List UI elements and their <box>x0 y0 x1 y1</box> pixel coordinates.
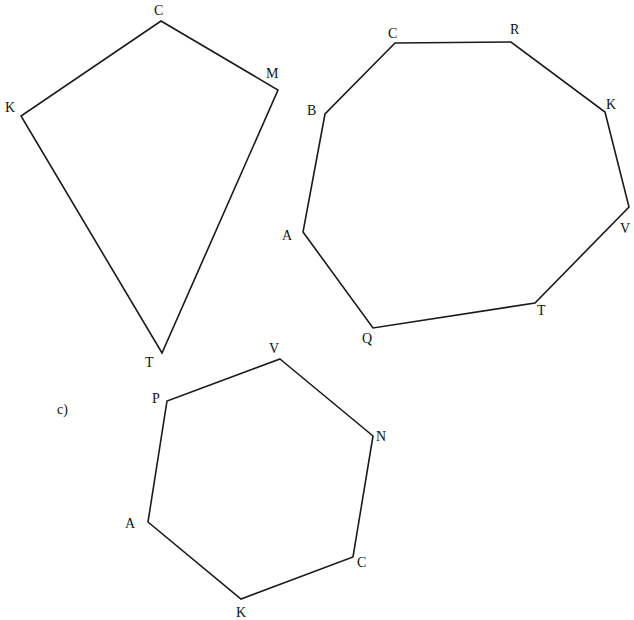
octagon-vertex-labels: CRKVTQAB <box>282 22 630 346</box>
vertex-label-r: R <box>510 22 520 37</box>
kite-outline <box>21 21 278 353</box>
octagon-shape: CRKVTQAB <box>282 22 630 346</box>
kite-shape: CMTK <box>5 3 279 370</box>
hexagon-outline <box>148 359 373 599</box>
kite-vertex-labels: CMTK <box>5 3 279 370</box>
vertex-label-k: K <box>236 605 246 620</box>
hexagon-shape: VNCKAP c) <box>57 341 386 620</box>
vertex-label-v: V <box>620 221 630 236</box>
vertex-label-k: K <box>5 100 15 115</box>
vertex-label-c: C <box>154 3 163 18</box>
vertex-label-q: Q <box>362 331 372 346</box>
vertex-label-n: N <box>376 429 386 444</box>
vertex-label-t: T <box>145 355 154 370</box>
vertex-label-p: P <box>152 391 160 406</box>
vertex-label-v: V <box>269 341 279 356</box>
octagon-outline <box>303 42 629 328</box>
part-label-c: c) <box>57 402 68 418</box>
vertex-label-a: A <box>282 228 293 243</box>
vertex-label-c: C <box>357 555 366 570</box>
vertex-label-b: B <box>307 103 316 118</box>
vertex-label-t: T <box>537 303 546 318</box>
vertex-label-a: A <box>125 516 136 531</box>
vertex-label-m: M <box>266 66 279 81</box>
vertex-label-c: C <box>388 26 397 41</box>
geometry-figure: CMTK CRKVTQAB VNCKAP c) <box>0 0 634 620</box>
hexagon-vertex-labels: VNCKAP <box>125 341 386 620</box>
vertex-label-k: K <box>606 97 616 112</box>
